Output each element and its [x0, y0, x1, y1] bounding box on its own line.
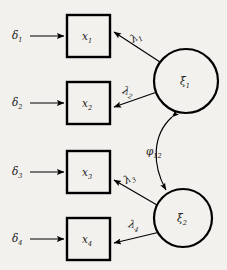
error-subscript-delta1: 1: [18, 36, 22, 44]
error-subscript-delta2: 2: [17, 103, 22, 111]
loading-label-lambda4: λ4: [126, 217, 141, 234]
sem-path-diagram: δ1 δ2 δ3 δ4 x1 x2 x3 x4 ξ1 ξ2: [0, 0, 227, 270]
error-subscript-delta4: 4: [17, 239, 22, 247]
error-label-delta1: δ1: [12, 29, 23, 44]
covariance-label-phi12: φ12: [146, 145, 162, 160]
loading-label-lambda3: λ3: [120, 170, 138, 189]
factor-subscript-xi2: 2: [182, 219, 187, 227]
factor-subscript-xi1: 1: [186, 82, 190, 90]
error-subscript-delta3: 3: [18, 172, 22, 180]
error-label-delta4: δ4: [12, 232, 23, 247]
arrow-lambda2-xi1-to-x2: [114, 92, 157, 107]
diagram-canvas: δ1 δ2 δ3 δ4 x1 x2 x3 x4 ξ1 ξ2: [0, 0, 227, 270]
indicator-subscript-x1: 1: [88, 37, 92, 45]
loading-label-lambda1: λ1: [127, 29, 145, 48]
indicator-subscript-x4: 4: [87, 240, 92, 248]
error-label-delta2: δ2: [12, 96, 23, 111]
indicator-subscript-x2: 2: [87, 104, 92, 112]
loading-subscript-lambda3: 3: [130, 176, 138, 185]
loading-label-lambda2: λ2: [119, 83, 135, 101]
covariance-subscript-phi12: 12: [153, 152, 161, 160]
indicator-subscript-x3: 3: [88, 173, 92, 181]
error-label-delta3: δ3: [12, 165, 23, 180]
